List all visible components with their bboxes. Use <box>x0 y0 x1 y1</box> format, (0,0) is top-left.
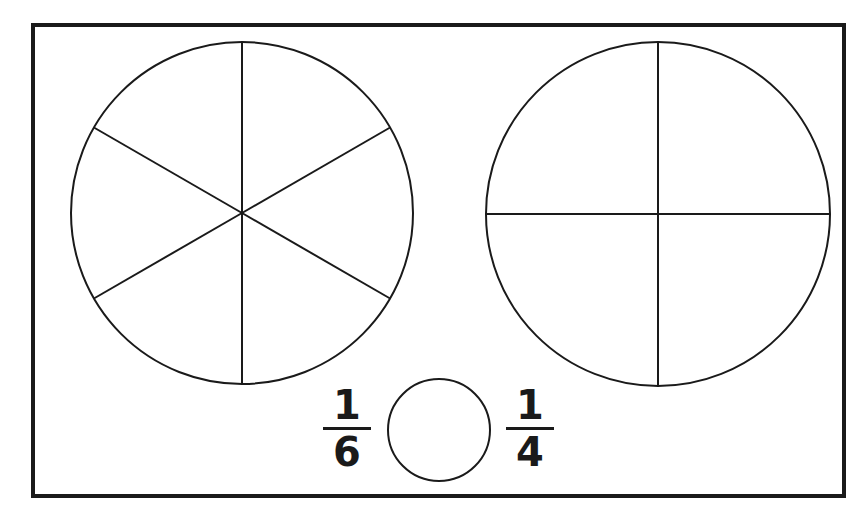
blank-circle <box>388 379 490 481</box>
denominator: 6 <box>317 432 377 472</box>
fraction-one-sixth: 1 6 <box>317 385 377 472</box>
division-line <box>242 213 390 299</box>
numerator: 1 <box>317 385 377 425</box>
fraction-one-quarter: 1 4 <box>500 385 560 472</box>
denominator: 4 <box>500 432 560 472</box>
division-line <box>94 213 242 299</box>
outer-frame <box>33 25 844 496</box>
division-line <box>94 128 242 214</box>
quarters-circle <box>486 42 830 386</box>
division-line <box>242 128 390 214</box>
sixths-circle <box>71 42 413 384</box>
numerator: 1 <box>500 385 560 425</box>
fraction-circles-diagram <box>0 0 855 510</box>
